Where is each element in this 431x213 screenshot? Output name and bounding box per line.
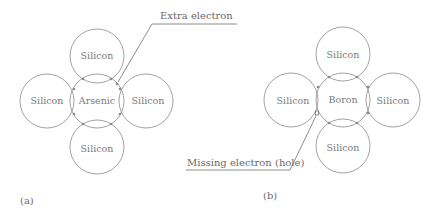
label-arsenic: Arsenic <box>78 95 115 106</box>
missing-electron-callout: Missing electron (hole) <box>187 157 304 168</box>
label-silicon-top-b: Silicon <box>327 49 360 60</box>
label-silicon-top-a: Silicon <box>81 50 114 61</box>
label-silicon-left-a: Silicon <box>31 95 64 106</box>
label-silicon-right-a: Silicon <box>132 95 165 106</box>
label-silicon-bottom-a: Silicon <box>81 143 114 154</box>
panel-label-a: (a) <box>20 195 34 206</box>
hole-marker <box>316 111 319 115</box>
extra-electron-callout: Extra electron <box>160 10 233 21</box>
panel-a: Silicon Silicon Silicon Silicon Arsenic … <box>20 10 237 206</box>
doping-diagram: Silicon Silicon Silicon Silicon Arsenic … <box>0 0 431 213</box>
label-boron: Boron <box>328 94 357 105</box>
panel-label-b: (b) <box>263 190 277 201</box>
extra-electron-leader <box>118 24 237 82</box>
label-silicon-right-b: Silicon <box>377 95 410 106</box>
panel-b: Silicon Silicon Silicon Silicon Boron Mi… <box>186 27 420 201</box>
label-silicon-left-b: Silicon <box>277 95 310 106</box>
label-silicon-bottom-b: Silicon <box>327 142 360 153</box>
extra-electron-dot <box>116 83 119 86</box>
